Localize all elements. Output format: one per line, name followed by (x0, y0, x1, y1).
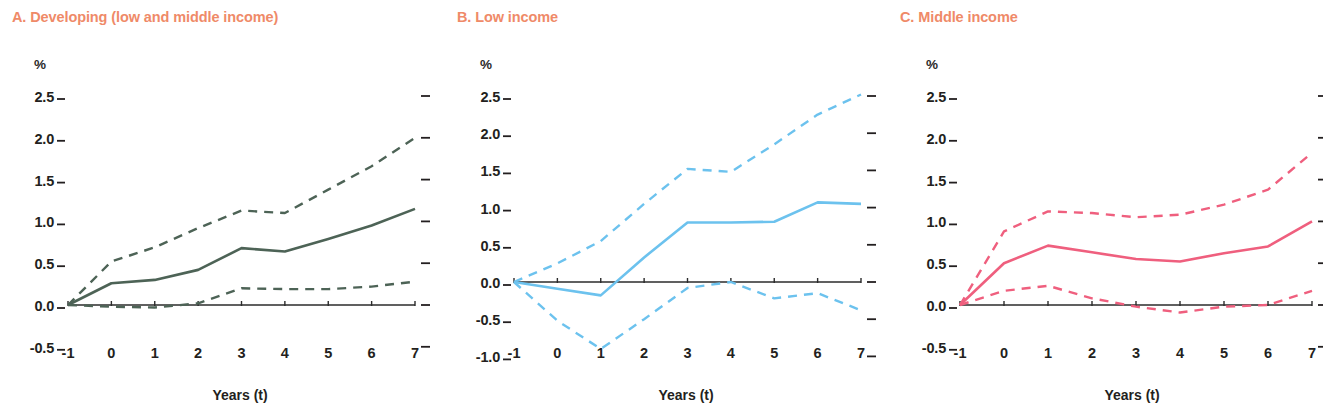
panel-c-xtick-label: 6 (1264, 345, 1272, 361)
panel-a-xtick-label: 1 (151, 345, 159, 361)
panel-b-ytick-label: 0.5 (480, 238, 500, 254)
panel-a-xtick-label: 4 (281, 345, 289, 361)
panel-a-xtick-label: 6 (368, 345, 376, 361)
panel-b-ytick-label: -0.5 (476, 312, 500, 328)
panel-b-xtick-label: 4 (727, 345, 735, 361)
panel-a-plot: 2.52.01.51.00.50.0-0.5-101234567 (0, 0, 441, 412)
panel-a-xtick-label: 5 (324, 345, 332, 361)
panel-a-xtick-label: 0 (107, 345, 115, 361)
panel-a-xtick-label: 2 (194, 345, 202, 361)
panel-b-ytick-label: 1.0 (480, 201, 500, 217)
panel-a-ytick-label: 0.0 (34, 298, 54, 314)
panel-a-ytick-label: 0.5 (34, 256, 54, 272)
series-dashed (960, 153, 1312, 305)
panel-c-ytick-label: -0.5 (922, 340, 946, 356)
panel-c: C. Middle income % 2.52.01.51.00.50.0-0.… (882, 0, 1323, 412)
series-dashed (960, 286, 1312, 313)
panel-b-xtick-label: 3 (683, 345, 691, 361)
multi-panel-chart-figure: A. Developing (low and middle income) % … (0, 0, 1323, 412)
panel-b-xtick-label: -1 (508, 345, 521, 361)
panel-a-xtick-label: 3 (237, 345, 245, 361)
panel-b-xtick-label: 2 (640, 345, 648, 361)
series-solid (960, 221, 1312, 305)
panel-c-xtick-label: 0 (1000, 345, 1008, 361)
panel-c-ytick-label: 0.0 (926, 298, 946, 314)
panel-c-xtick-label: 5 (1220, 345, 1228, 361)
panel-b-plot: 2.52.01.51.00.50.0-0.5-1.0-101234567 (441, 0, 882, 412)
panel-c-ytick-label: 2.5 (926, 89, 946, 105)
panel-c-ytick-label: 1.0 (926, 214, 946, 230)
panel-a-ytick-label: 2.0 (34, 131, 54, 147)
series-dashed (68, 138, 415, 305)
panel-b-ytick-label: 1.5 (480, 163, 500, 179)
panel-b-xtick-label: 5 (770, 345, 778, 361)
panel-b-ytick-label: -1.0 (476, 349, 500, 365)
panel-c-x-axis-title: Years (t) (1037, 387, 1227, 403)
panel-c-xtick-label: 1 (1044, 345, 1052, 361)
panel-b-xtick-label: 7 (857, 345, 865, 361)
panel-a-ytick-label: -0.5 (30, 340, 54, 356)
panel-c-ytick-label: 0.5 (926, 256, 946, 272)
panel-c-xtick-label: -1 (954, 345, 967, 361)
panel-a-ytick-label: 2.5 (34, 89, 54, 105)
panel-c-xtick-label: 7 (1308, 345, 1316, 361)
panel-b-ytick-label: 2.0 (480, 126, 500, 142)
series-dashed (514, 95, 861, 282)
panel-a-x-axis-title: Years (t) (145, 387, 335, 403)
panel-b: B. Low income % 2.52.01.51.00.50.0-0.5-1… (441, 0, 882, 412)
series-solid (68, 209, 415, 305)
panel-c-xtick-label: 2 (1088, 345, 1096, 361)
panel-c-xtick-label: 3 (1132, 345, 1140, 361)
panel-c-xtick-label: 4 (1176, 345, 1184, 361)
panel-b-ytick-label: 0.0 (480, 275, 500, 291)
panel-a: A. Developing (low and middle income) % … (0, 0, 441, 412)
panel-a-ytick-label: 1.5 (34, 173, 54, 189)
panel-a-ytick-label: 1.0 (34, 214, 54, 230)
panel-c-ytick-label: 2.0 (926, 131, 946, 147)
series-dashed (514, 282, 861, 349)
panel-a-xtick-label: 7 (411, 345, 419, 361)
panel-a-xtick-label: -1 (62, 345, 75, 361)
panel-b-xtick-label: 6 (814, 345, 822, 361)
panel-b-ytick-label: 2.5 (480, 89, 500, 105)
panel-c-plot: 2.52.01.51.00.50.0-0.5-101234567 (882, 0, 1323, 412)
panel-b-x-axis-title: Years (t) (591, 387, 781, 403)
panel-b-xtick-label: 0 (553, 345, 561, 361)
panel-c-ytick-label: 1.5 (926, 173, 946, 189)
